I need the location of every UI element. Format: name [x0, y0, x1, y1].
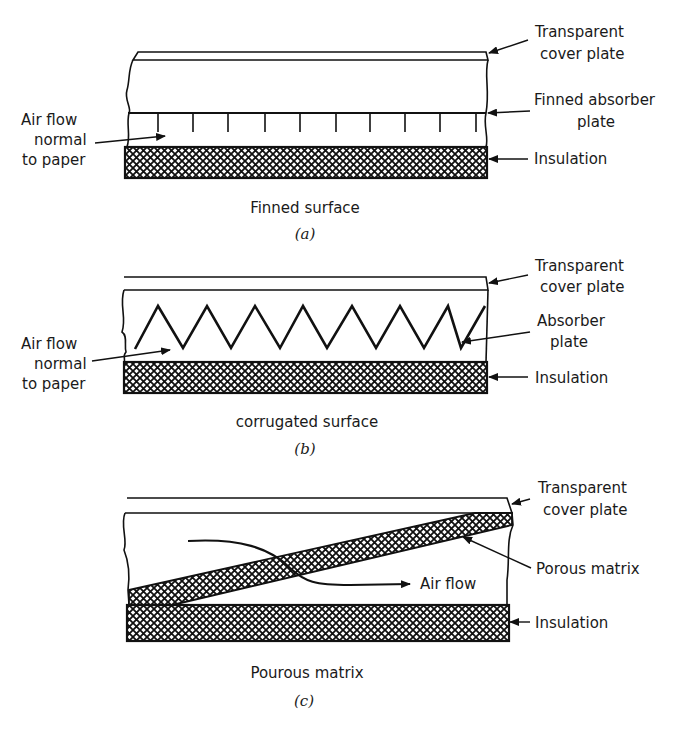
airflow-label-line2: normal: [34, 355, 87, 373]
panel-c-sublabel: (c): [294, 692, 314, 710]
panel-a-sublabel: (a): [295, 225, 316, 243]
airflow-label: Air flow: [420, 575, 476, 593]
airflow-label-line1: Air flow: [21, 111, 77, 129]
matrix-label: Porous matrix: [536, 560, 640, 578]
cover-label-line1: Transparent: [534, 257, 624, 275]
panel-c: [123, 498, 531, 641]
absorber-leader-arrow: [488, 111, 530, 113]
insulation-layer: [124, 362, 487, 393]
right-break-line: [486, 290, 488, 362]
airflow-label-line1: Air flow: [21, 335, 77, 353]
insulation-label: Insulation: [535, 614, 608, 632]
panel-b: [92, 275, 530, 393]
cover-leader-arrow: [489, 275, 528, 283]
matrix-leader-arrow: [463, 537, 531, 568]
airflow-leader-arrow: [95, 136, 165, 143]
panel-b-caption: corrugated surface: [236, 413, 379, 431]
airflow-leader-arrow: [92, 350, 170, 361]
airflow-label-line2: normal: [34, 131, 87, 149]
absorber-label-line1: Finned absorber: [534, 91, 656, 109]
left-break-line: [122, 290, 126, 362]
cover-plate: [124, 277, 488, 290]
cover-leader-arrow: [489, 40, 528, 53]
insulation-label: Insulation: [534, 150, 607, 168]
cover-plate: [133, 52, 488, 60]
panel-b-sublabel: (b): [294, 440, 315, 458]
right-break-line: [485, 60, 488, 147]
panel-c-caption: Pourous matrix: [250, 664, 363, 682]
cover-plate: [125, 498, 512, 513]
insulation-layer: [127, 605, 509, 641]
left-break-line: [126, 60, 133, 147]
airflow-label-line3: to paper: [22, 375, 86, 393]
cover-leader-arrow: [512, 499, 530, 504]
airflow-label-line3: to paper: [22, 151, 86, 169]
absorber-leader-arrow: [462, 332, 530, 342]
panel-a-caption: Finned surface: [250, 199, 360, 217]
cover-label-line1: Transparent: [534, 23, 624, 41]
insulation-label: Insulation: [535, 369, 608, 387]
cover-label-line2: cover plate: [540, 278, 624, 296]
absorber-label-line2: plate: [550, 333, 588, 351]
fins: [158, 113, 476, 132]
panel-a: [95, 40, 530, 178]
cover-label-line1: Transparent: [537, 479, 627, 497]
absorber-label-line1: Absorber: [537, 312, 606, 330]
solar-air-heater-diagram: Transparent cover plate Finned absorber …: [0, 0, 674, 730]
absorber-label-line2: plate: [577, 113, 615, 131]
insulation-layer: [125, 147, 487, 178]
corrugated-absorber-plate: [135, 306, 485, 349]
cover-label-line2: cover plate: [543, 501, 627, 519]
cover-label-line2: cover plate: [540, 45, 624, 63]
